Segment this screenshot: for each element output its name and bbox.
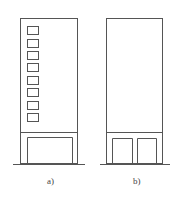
building-a [13,19,85,165]
window [28,52,39,60]
building-a-door [28,138,73,165]
panel-label-a: a) [47,176,54,186]
building-a-outline [21,19,78,164]
elevation-diagram [0,0,181,199]
window [28,102,39,110]
building-b-outline [107,19,163,164]
window [28,77,39,85]
building-a-windows [28,27,39,122]
window [28,40,39,48]
building-b-door-left [113,139,133,165]
window [28,89,39,97]
window [28,114,39,122]
building-b [100,19,170,165]
window [28,27,39,35]
window [28,64,39,72]
building-b-door-right [138,139,157,165]
panel-label-b: b) [133,176,141,186]
